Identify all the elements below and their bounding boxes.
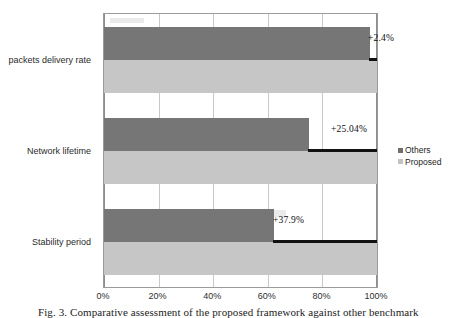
annotation-label-0: +2.4% (368, 33, 394, 43)
bar-group-network-lifetime-proposed (104, 151, 377, 184)
annotation-label-2: +37.9% (273, 215, 304, 225)
legend-swatch-others-icon (398, 148, 403, 153)
scan-artifact (110, 18, 144, 23)
bar-group-packets-delivery-rate-others (104, 27, 377, 60)
annotation-line-1 (308, 149, 377, 152)
x-tick-100: 100% (364, 291, 387, 301)
x-tick-0: 0% (96, 291, 109, 301)
bar-group-stability-period-proposed (104, 242, 377, 275)
x-tick-60: 60% (258, 291, 276, 301)
annotation-line-2 (273, 240, 377, 243)
legend-swatch-proposed-icon (398, 159, 403, 164)
figure-caption: Fig. 3. Comparative assessment of the pr… (38, 306, 458, 318)
annotation-label-1: +25.04% (331, 124, 367, 134)
plot-area (103, 13, 378, 288)
bar-group-network-lifetime-others (104, 118, 377, 151)
legend-item-proposed: Proposed (398, 158, 441, 167)
legend-item-others: Others (398, 146, 441, 155)
legend-label-proposed: Proposed (405, 158, 441, 167)
bar-others-1 (104, 118, 309, 151)
bar-proposed-0 (104, 60, 377, 93)
bar-others-2 (104, 209, 274, 242)
figure-container: packets delivery rate Network lifetime S… (0, 0, 466, 318)
chart-legend: Others Proposed (398, 146, 441, 169)
bar-group-packets-delivery-rate-proposed (104, 60, 377, 93)
x-tick-20: 20% (149, 291, 167, 301)
bar-group-stability-period-others (104, 209, 377, 242)
legend-label-others: Others (405, 146, 431, 155)
bar-proposed-1 (104, 151, 377, 184)
annotation-line-0 (369, 58, 377, 61)
x-tick-40: 40% (203, 291, 221, 301)
x-tick-80: 80% (312, 291, 330, 301)
category-label-network-lifetime: Network lifetime (0, 146, 97, 156)
category-label-packets-delivery-rate: packets delivery rate (0, 55, 97, 65)
category-label-stability-period: Stability period (0, 237, 97, 247)
bar-others-0 (104, 27, 370, 60)
bar-proposed-2 (104, 242, 377, 275)
